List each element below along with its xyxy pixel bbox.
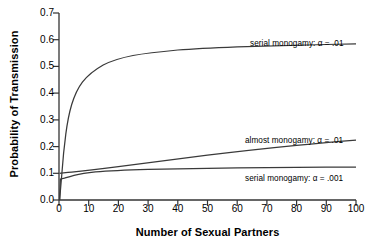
x-tick-label: 80 [282, 204, 312, 214]
y-axis-title: Probability of Transmission [8, 9, 20, 199]
y-tick-label: 0.2 [20, 142, 54, 152]
x-tick-label: 30 [133, 204, 163, 214]
y-tick-label: 0.6 [20, 35, 54, 45]
y-tick-label: 0.7 [20, 8, 54, 18]
y-tick-label: 0.5 [20, 61, 54, 71]
x-tick-label: 70 [252, 204, 282, 214]
x-tick-label: 10 [74, 204, 104, 214]
x-tick-label: 0 [44, 204, 74, 214]
y-tick-label: 0.3 [20, 115, 54, 125]
x-tick-label: 100 [341, 204, 371, 214]
x-tick-label: 90 [311, 204, 341, 214]
x-tick-label: 20 [103, 204, 133, 214]
y-tick-label: 0.4 [20, 88, 54, 98]
x-tick-label: 60 [222, 204, 252, 214]
y-tick-label: 0.1 [20, 168, 54, 178]
series-line-serial-monogamy-001 [60, 167, 356, 200]
x-tick-label: 50 [193, 204, 223, 214]
chart-figure: 0.0 0.1 0.2 0.3 0.4 0.5 0.6 0.7 0 10 20 … [0, 0, 378, 246]
x-tick-label: 40 [163, 204, 193, 214]
curve-annotation-serial-monogamy-01: serial monogamy: α = .01 [250, 39, 344, 48]
x-axis-title: Number of Sexual Partners [59, 226, 356, 238]
curve-annotation-serial-monogamy-001: serial monogamy: α = .001 [245, 174, 343, 183]
curve-annotation-almost-monogamy-01: almost monogamy: α = .01 [245, 136, 343, 145]
